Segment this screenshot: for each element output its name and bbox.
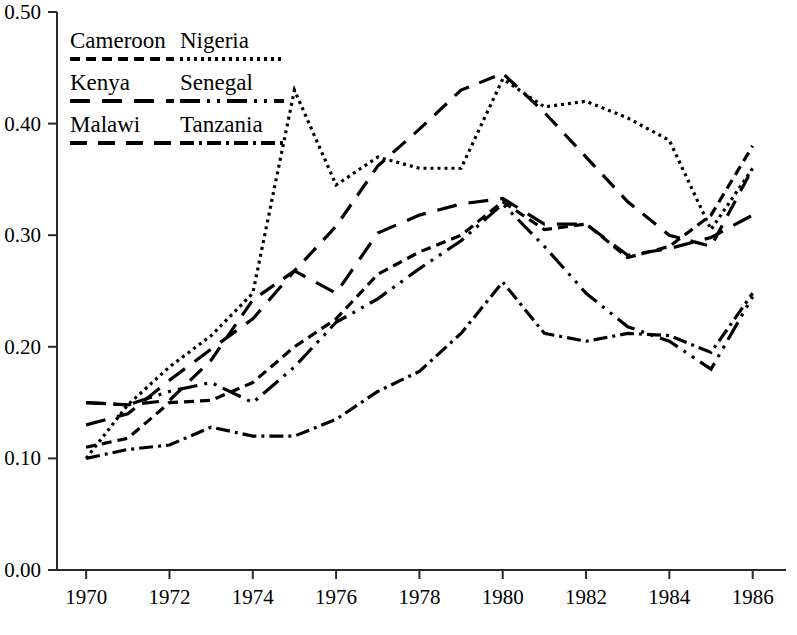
x-tick-label: 1984 xyxy=(648,585,691,609)
series-line-cameroon xyxy=(86,146,753,447)
y-tick-label: 0.50 xyxy=(4,0,41,24)
series-line-senegal xyxy=(86,204,753,405)
x-tick-label: 1986 xyxy=(732,585,774,609)
legend-label: Cameroon xyxy=(70,28,166,53)
legend-item-cameroon[interactable]: Cameroon xyxy=(70,28,174,59)
y-tick-label: 0.10 xyxy=(4,446,41,470)
legend-item-malawi[interactable]: Malawi xyxy=(70,112,174,143)
x-tick-label: 1976 xyxy=(315,585,357,609)
axis-spine xyxy=(57,12,786,570)
x-tick-label: 1980 xyxy=(482,585,524,609)
legend-item-tanzania[interactable]: Tanzania xyxy=(180,112,284,143)
legend-label: Kenya xyxy=(70,70,130,95)
line-chart: 0.000.100.200.300.400.50 197019721974197… xyxy=(0,0,797,635)
x-tick-label: 1972 xyxy=(148,585,190,609)
axes xyxy=(57,12,786,570)
legend-label: Senegal xyxy=(180,70,253,95)
plot-area: 0.000.100.200.300.400.50 197019721974197… xyxy=(0,0,797,635)
y-tick-label: 0.40 xyxy=(4,112,41,136)
x-tick-label: 1982 xyxy=(565,585,607,609)
y-axis-ticks: 0.000.100.200.300.400.50 xyxy=(4,0,57,582)
legend-label: Tanzania xyxy=(180,112,263,137)
y-tick-label: 0.30 xyxy=(4,223,41,247)
legend-item-nigeria[interactable]: Nigeria xyxy=(180,28,284,59)
x-axis-ticks: 197019721974197619781980198219841986 xyxy=(65,570,774,609)
x-tick-label: 1970 xyxy=(65,585,107,609)
legend-label: Malawi xyxy=(70,112,140,137)
legend-item-kenya[interactable]: Kenya xyxy=(70,70,174,101)
y-tick-label: 0.00 xyxy=(4,558,41,582)
series-line-kenya xyxy=(86,198,753,425)
legend-label: Nigeria xyxy=(180,28,249,53)
legend-item-senegal[interactable]: Senegal xyxy=(180,70,284,101)
y-tick-label: 0.20 xyxy=(4,335,41,359)
x-tick-label: 1974 xyxy=(232,585,275,609)
chart-legend: CameroonNigeriaKenyaSenegalMalawiTanzani… xyxy=(70,28,284,143)
series-line-tanzania xyxy=(86,282,753,458)
x-tick-label: 1978 xyxy=(398,585,440,609)
